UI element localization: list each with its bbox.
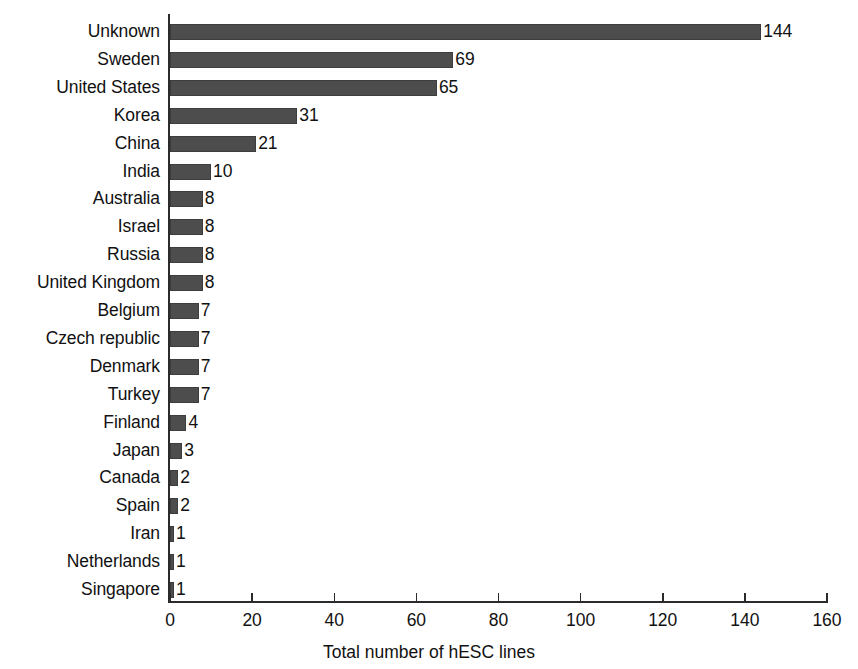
bar-value-label: 4 xyxy=(188,414,198,432)
bar xyxy=(170,247,203,263)
bar xyxy=(170,498,178,514)
bar xyxy=(170,164,211,180)
y-axis-line xyxy=(168,14,170,603)
x-axis-tick xyxy=(251,593,253,602)
x-axis-tick-label: 0 xyxy=(140,612,200,630)
category-label: Belgium xyxy=(0,302,160,320)
bar-value-label: 7 xyxy=(201,358,211,376)
bar xyxy=(170,191,203,207)
bar-value-label: 10 xyxy=(213,163,232,181)
x-axis-tick-label: 120 xyxy=(633,612,693,630)
category-label: Czech republic xyxy=(0,330,160,348)
bar xyxy=(170,387,199,403)
bar xyxy=(170,303,199,319)
x-axis-title: Total number of hESC lines xyxy=(0,643,858,662)
bar-value-label: 2 xyxy=(180,497,190,515)
bar xyxy=(170,275,203,291)
category-label: Spain xyxy=(0,497,160,515)
bar-value-label: 7 xyxy=(201,386,211,404)
bar xyxy=(170,108,297,124)
category-label: Australia xyxy=(0,190,160,208)
category-label: Unknown xyxy=(0,23,160,41)
category-label: United Kingdom xyxy=(0,274,160,292)
x-axis-tick xyxy=(662,593,664,602)
bar xyxy=(170,52,453,68)
bar-value-label: 8 xyxy=(205,274,215,292)
category-label: Turkey xyxy=(0,386,160,404)
category-label: Russia xyxy=(0,246,160,264)
x-axis-tick-label: 80 xyxy=(469,612,529,630)
x-axis-tick xyxy=(498,593,500,602)
bar xyxy=(170,443,182,459)
bar xyxy=(170,80,437,96)
category-label: India xyxy=(0,163,160,181)
category-label: United States xyxy=(0,79,160,97)
x-axis-tick-label: 40 xyxy=(304,612,364,630)
x-axis-tick-label: 160 xyxy=(797,612,857,630)
bar xyxy=(170,470,178,486)
x-axis-tick xyxy=(169,593,171,602)
category-label: Korea xyxy=(0,107,160,125)
bar-value-label: 21 xyxy=(258,135,277,153)
bar xyxy=(170,136,256,152)
bar-chart: UnknownSwedenUnited StatesKoreaChinaIndi… xyxy=(0,0,858,669)
bar xyxy=(170,415,186,431)
bar xyxy=(170,554,174,570)
bar xyxy=(170,331,199,347)
category-label: Japan xyxy=(0,442,160,460)
x-axis-tick xyxy=(744,593,746,602)
x-axis-tick-label: 60 xyxy=(386,612,446,630)
bar xyxy=(170,24,761,40)
category-label: China xyxy=(0,135,160,153)
x-axis-tick xyxy=(334,593,336,602)
category-label: Netherlands xyxy=(0,553,160,571)
bar-value-label: 3 xyxy=(184,442,194,460)
x-axis-tick-label: 100 xyxy=(551,612,611,630)
category-label: Denmark xyxy=(0,358,160,376)
bar-value-label: 1 xyxy=(176,525,186,543)
bar xyxy=(170,219,203,235)
category-label: Finland xyxy=(0,414,160,432)
category-label: Canada xyxy=(0,469,160,487)
x-axis-tick-label: 20 xyxy=(222,612,282,630)
bar-value-label: 8 xyxy=(205,218,215,236)
x-axis-tick xyxy=(826,593,828,602)
category-label: Israel xyxy=(0,218,160,236)
x-axis-tick-label: 140 xyxy=(715,612,775,630)
bar-value-label: 8 xyxy=(205,190,215,208)
bar-value-label: 7 xyxy=(201,330,211,348)
bar-value-label: 8 xyxy=(205,246,215,264)
bar xyxy=(170,526,174,542)
bar-value-label: 7 xyxy=(201,302,211,320)
bar-value-label: 1 xyxy=(176,553,186,571)
category-label: Sweden xyxy=(0,51,160,69)
bar-value-label: 1 xyxy=(176,581,186,599)
bar xyxy=(170,359,199,375)
bar-value-label: 65 xyxy=(439,79,458,97)
bar-value-label: 144 xyxy=(763,23,792,41)
x-axis-tick xyxy=(580,593,582,602)
category-label: Iran xyxy=(0,525,160,543)
bar-value-label: 2 xyxy=(180,469,190,487)
bar-value-label: 69 xyxy=(455,51,474,69)
bar-value-label: 31 xyxy=(299,107,318,125)
plot-area: UnknownSwedenUnited StatesKoreaChinaIndi… xyxy=(0,0,858,669)
category-label: Singapore xyxy=(0,581,160,599)
x-axis-tick xyxy=(416,593,418,602)
